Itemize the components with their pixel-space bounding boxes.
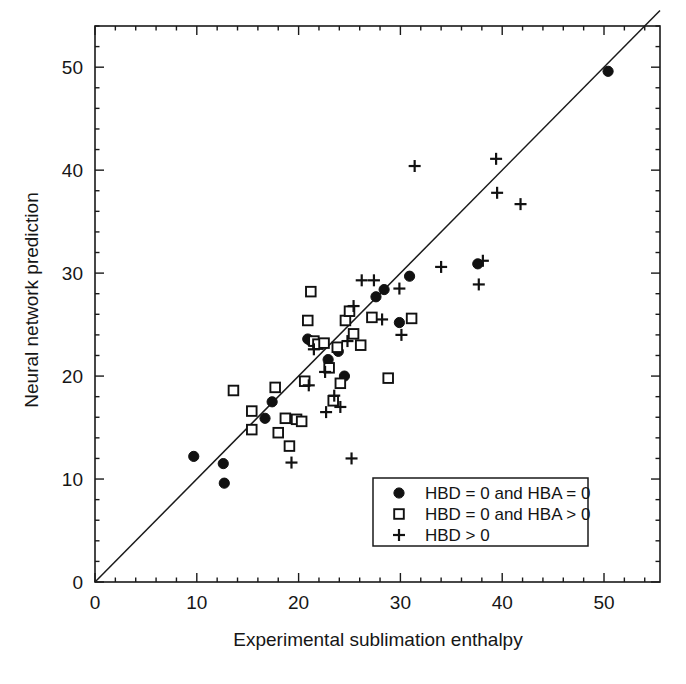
x-tick-label: 50	[593, 592, 614, 613]
marker-open-square	[297, 417, 307, 427]
y-tick-label: 10	[62, 469, 83, 490]
x-tick-label: 0	[90, 592, 101, 613]
legend-box: HBD = 0 and HBA = 0HBD = 0 and HBA > 0HB…	[373, 478, 590, 546]
marker-filled-circle	[189, 451, 199, 461]
legend-entry-label: HBD = 0 and HBA = 0	[425, 484, 590, 503]
y-tick-label: 30	[62, 263, 83, 284]
marker-open-square	[407, 314, 417, 324]
marker-open-square	[273, 428, 283, 438]
marker-open-square	[341, 316, 351, 326]
marker-filled-circle	[394, 317, 404, 327]
marker-open-square	[383, 373, 393, 383]
marker-open-square	[303, 316, 313, 326]
y-tick-label: 0	[72, 572, 83, 593]
marker-filled-circle	[379, 284, 389, 294]
marker-filled-circle	[267, 397, 277, 407]
x-tick-label: 30	[390, 592, 411, 613]
y-tick-label: 40	[62, 160, 83, 181]
marker-open-square	[281, 413, 291, 423]
legend-entry-label: HBD = 0 and HBA > 0	[425, 505, 590, 524]
scatter-plot-figure: 0102030405001020304050 HBD = 0 and HBA =…	[0, 0, 686, 684]
marker-open-square	[247, 425, 257, 435]
y-axis-label: Neural network prediction	[21, 192, 42, 407]
marker-filled-circle	[603, 66, 613, 76]
legend-entry-label: HBD > 0	[425, 526, 490, 545]
x-tick-label: 10	[186, 592, 207, 613]
marker-filled-circle	[260, 413, 270, 423]
marker-open-square	[285, 441, 295, 451]
marker-open-square	[270, 383, 280, 393]
marker-filled-circle	[371, 292, 381, 302]
marker-open-square	[349, 329, 359, 339]
marker-open-square	[332, 342, 342, 352]
marker-open-square	[306, 287, 316, 297]
marker-open-square	[247, 406, 257, 416]
x-tick-label: 20	[288, 592, 309, 613]
marker-filled-circle	[219, 478, 229, 488]
plot-canvas: 0102030405001020304050 HBD = 0 and HBA =…	[0, 0, 686, 684]
marker-filled-circle	[404, 271, 414, 281]
marker-open-square	[356, 340, 366, 350]
marker-open-square	[394, 509, 404, 519]
marker-filled-circle	[394, 488, 404, 498]
marker-open-square	[336, 378, 346, 388]
marker-open-square	[367, 313, 377, 323]
marker-open-square	[319, 338, 329, 348]
marker-open-square	[229, 386, 239, 396]
marker-filled-circle	[218, 458, 228, 468]
y-tick-label: 20	[62, 366, 83, 387]
x-axis-label: Experimental sublimation enthalpy	[233, 629, 523, 650]
x-tick-label: 40	[492, 592, 513, 613]
y-tick-label: 50	[62, 57, 83, 78]
